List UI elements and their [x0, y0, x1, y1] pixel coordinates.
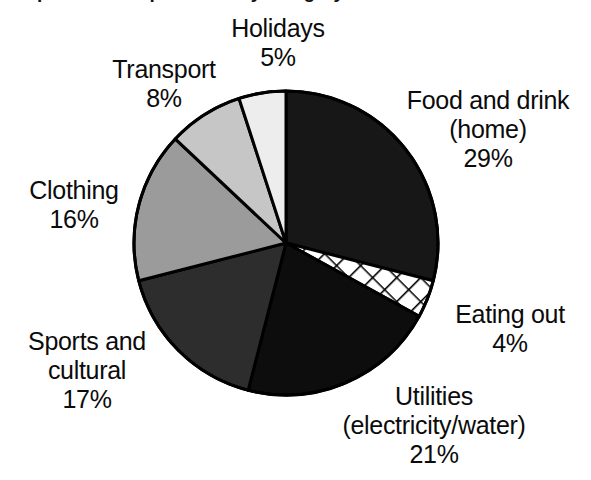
slice-label-sports-value: 17%: [0, 385, 180, 414]
slice-label-transport-value: 8%: [78, 84, 250, 113]
slice-label-clothing: Clothing 16%: [0, 176, 154, 234]
slice-label-sports-and-cultural: Sports and cultural 17%: [0, 327, 180, 414]
slice-label-eating-name: Eating out: [432, 300, 588, 329]
slice-label-transport-name: Transport: [78, 55, 250, 84]
slice-label-utilities-name-line2: (electricity/water): [300, 411, 568, 440]
slice-label-sports-name-line2: cultural: [0, 356, 180, 385]
slice-label-holidays-name: Holidays: [198, 14, 358, 43]
slice-label-transport: Transport 8%: [78, 55, 250, 113]
slice-label-eating-value: 4%: [432, 329, 588, 358]
slice-label-food-value: 29%: [390, 144, 586, 173]
slice-label-utilities-value: 21%: [300, 440, 568, 469]
slice-label-food-and-drink: Food and drink (home) 29%: [390, 86, 586, 173]
slice-label-clothing-value: 16%: [0, 205, 154, 234]
slice-label-clothing-name: Clothing: [0, 176, 154, 205]
slice-label-utilities-name-line1: Utilities: [300, 382, 568, 411]
slice-label-utilities: Utilities (electricity/water) 21%: [300, 382, 568, 469]
slice-label-food-name-line1: Food and drink: [390, 86, 586, 115]
slice-label-sports-name-line1: Sports and: [0, 327, 180, 356]
slice-label-eating-out: Eating out 4%: [432, 300, 588, 358]
slice-label-food-name-line2: (home): [390, 115, 586, 144]
pie-chart-figure: Proportion of expenditure by category - …: [0, 0, 591, 480]
